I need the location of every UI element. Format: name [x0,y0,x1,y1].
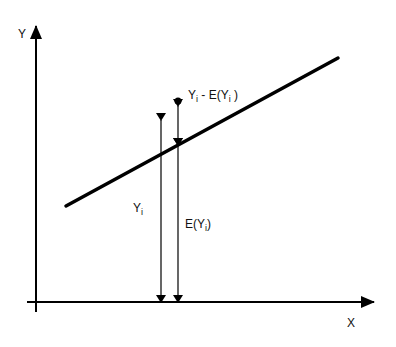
residual-label: Yi - E(Yi ) [188,88,238,104]
yi-label: Yi [133,201,143,217]
observation-point [175,98,182,105]
expected-value-label: E(Yi) [185,217,211,233]
y-axis-label: Y [18,27,26,41]
regression-line [66,58,338,206]
x-axis-label: X [347,316,355,330]
regression-diagram: Y X Yi - E(Yi ) Yi E(Yi) [0,0,396,347]
